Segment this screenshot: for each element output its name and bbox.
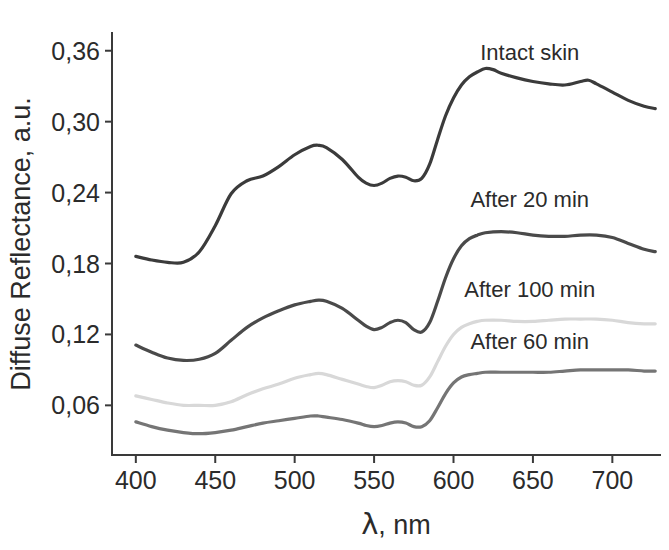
- diffuse-reflectance-chart: 0,060,120,180,240,300,364004505005506006…: [0, 0, 669, 550]
- x-tick-label: 650: [512, 466, 554, 494]
- series-label-after-100-min: After 100 min: [464, 277, 595, 302]
- y-tick-label: 0,30: [51, 108, 100, 136]
- x-tick-label: 500: [274, 466, 316, 494]
- y-axis-title: Diffuse Reflectance, a.u.: [6, 97, 36, 391]
- y-tick-label: 0,36: [51, 37, 100, 65]
- axis-spine: [112, 33, 660, 455]
- axis-ticks-layer: 0,060,120,180,240,300,364004505005506006…: [51, 37, 633, 494]
- y-tick-label: 0,18: [51, 250, 100, 278]
- x-tick-label: 600: [433, 466, 475, 494]
- y-tick-label: 0,12: [51, 320, 100, 348]
- lambda-symbol: λ: [361, 507, 378, 541]
- series-curves-layer: [136, 68, 655, 433]
- axes-layer: [112, 33, 660, 455]
- series-label-intact-skin: Intact skin: [480, 40, 579, 65]
- x-axis-title: λ, nm: [361, 507, 431, 541]
- chart-page: 0,060,120,180,240,300,364004505005506006…: [0, 0, 669, 550]
- series-label-after-20-min: After 20 min: [470, 187, 589, 212]
- series-labels-layer: Intact skinAfter 20 minAfter 100 minAfte…: [464, 40, 595, 353]
- x-tick-label: 450: [194, 466, 236, 494]
- x-tick-label: 550: [353, 466, 395, 494]
- x-tick-label: 400: [115, 466, 157, 494]
- y-tick-label: 0,24: [51, 179, 100, 207]
- series-label-after-60-min: After 60 min: [470, 329, 589, 354]
- x-tick-label: 700: [591, 466, 633, 494]
- x-axis-title-unit: , nm: [378, 510, 431, 540]
- y-tick-label: 0,06: [51, 391, 100, 419]
